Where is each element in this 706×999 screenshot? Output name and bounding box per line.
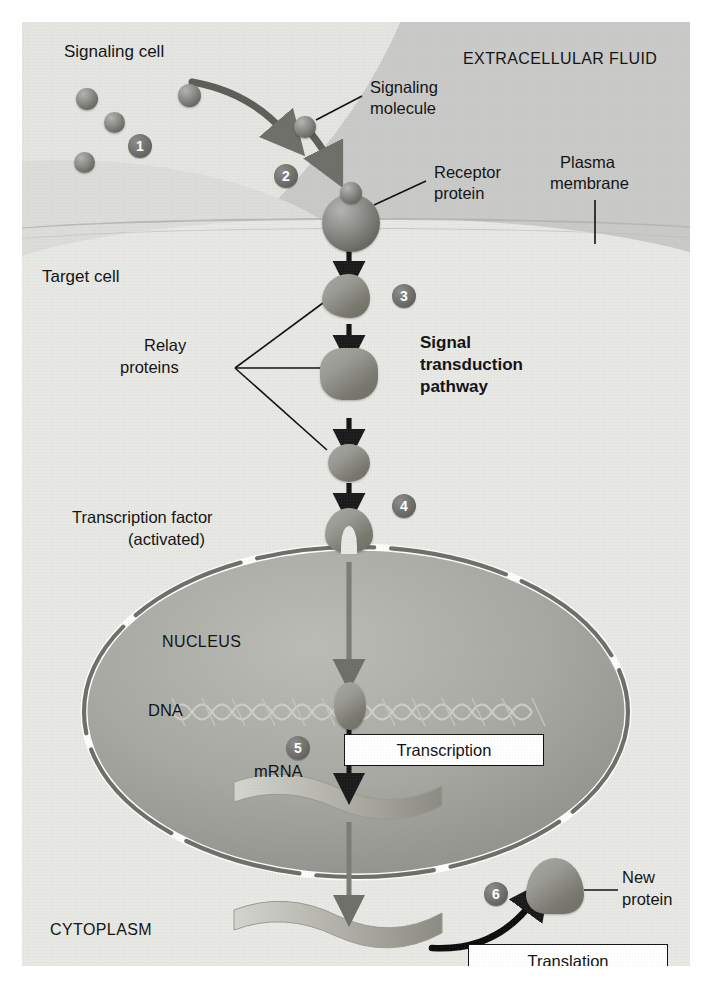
label-plasma-membrane-line2: membrane: [550, 174, 629, 193]
relay-protein-1: [322, 274, 370, 318]
transcription-factor: [325, 508, 373, 552]
relay-protein-3: [328, 444, 370, 482]
label-relay-proteins-line2: proteins: [120, 358, 179, 377]
label-plasma-membrane-line1: Plasma: [560, 153, 615, 172]
arrow-secretion: [192, 82, 286, 134]
label-dna: DNA: [148, 701, 183, 720]
arrow-molecule-to-receptor: [310, 132, 330, 162]
label-cytoplasm: CYTOPLASM: [50, 920, 152, 939]
label-mrna: mRNA: [254, 762, 303, 781]
label-transcription-factor-line1: Transcription factor: [72, 508, 213, 527]
step-badge-3: 3: [392, 284, 416, 308]
step-badge-4: 4: [392, 494, 416, 518]
label-nucleus: NUCLEUS: [162, 632, 241, 651]
label-new-protein-line1: New: [622, 868, 655, 887]
relay-protein-2: [320, 348, 378, 400]
signaling-molecule-ball: [74, 152, 95, 173]
leader-relay-3: [235, 368, 327, 450]
label-signaling-molecule-line2: molecule: [370, 99, 436, 118]
signaling-molecule-ball: [104, 112, 125, 133]
label-receptor-protein-line1: Receptor: [434, 163, 501, 182]
cell-signaling-figure: 1 2 3 4 5 6 Signaling cell EXTRACELLULAR…: [22, 22, 690, 966]
label-signal-transduction-line3: pathway: [420, 377, 488, 397]
signaling-molecule-ball: [76, 88, 98, 110]
label-signal-transduction-line2: transduction: [420, 355, 523, 375]
translation-box: Translation: [468, 944, 668, 966]
label-signal-transduction-line1: Signal: [420, 333, 471, 353]
label-new-protein-line2: protein: [622, 890, 672, 909]
label-extracellular-fluid: EXTRACELLULAR FLUID: [463, 49, 657, 68]
receptor-bound-ligand: [340, 182, 362, 204]
arrow-translation: [432, 900, 534, 948]
step-badge-6: 6: [484, 882, 508, 906]
label-relay-proteins-line1: Relay: [144, 336, 186, 355]
leader-relay-1: [235, 300, 327, 368]
signaling-molecule-released: [294, 116, 316, 138]
mrna-ribbon-cytoplasm: [234, 901, 442, 947]
leader-receptor-protein: [374, 181, 426, 205]
step-badge-2: 2: [274, 164, 298, 188]
leader-signaling-molecule: [316, 96, 362, 120]
label-signaling-cell: Signaling cell: [64, 42, 164, 62]
transcription-factor-on-dna: [334, 682, 366, 730]
label-transcription-factor-line2: (activated): [128, 530, 205, 549]
signaling-molecule-ball: [178, 84, 201, 107]
label-receptor-protein-line2: protein: [434, 184, 484, 203]
step-badge-1: 1: [128, 134, 152, 158]
transcription-box: Transcription: [344, 734, 544, 766]
label-target-cell: Target cell: [42, 267, 119, 287]
label-signaling-molecule-line1: Signaling: [370, 78, 438, 97]
step-badge-5: 5: [286, 736, 310, 760]
